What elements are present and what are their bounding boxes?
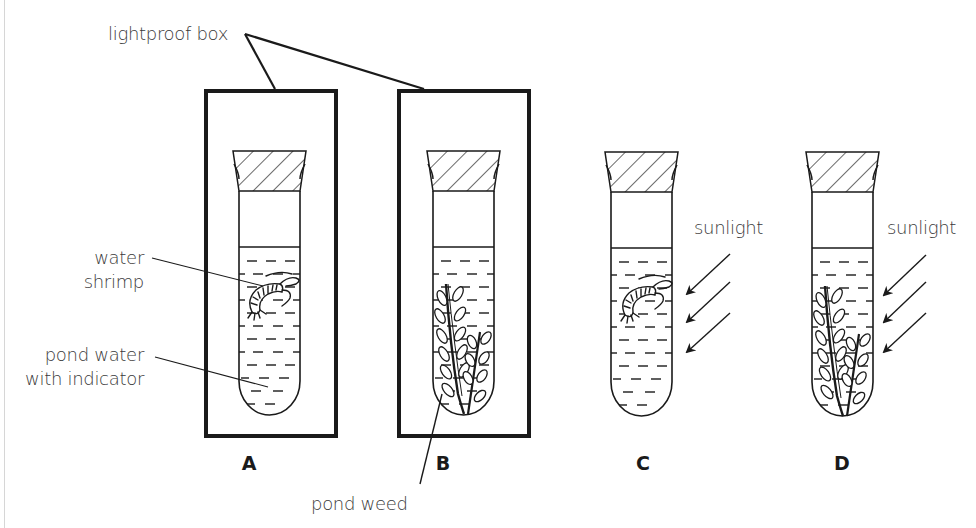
test-tube-d bbox=[806, 152, 879, 416]
test-tube-a bbox=[233, 151, 306, 415]
pond-water-leader bbox=[155, 357, 268, 387]
label-lightproof-box: lightproof box bbox=[108, 22, 228, 46]
label-sunlight-c: sunlight bbox=[694, 216, 763, 240]
tube-label-c: C bbox=[623, 452, 663, 474]
label-pond-water-2: with indicator bbox=[10, 367, 144, 391]
label-pond-water-1: pond water bbox=[10, 343, 144, 367]
water-shrimp-icon bbox=[621, 275, 672, 323]
test-tube-c bbox=[605, 152, 678, 416]
label-pond-weed: pond weed bbox=[311, 492, 408, 516]
sunlight-arrows-d bbox=[884, 255, 926, 352]
label-water-shrimp-2: shrimp bbox=[60, 270, 144, 294]
test-tube-b bbox=[427, 151, 500, 415]
label-sunlight-d: sunlight bbox=[887, 216, 956, 240]
tube-label-a: A bbox=[229, 452, 269, 474]
sunlight-arrows-c bbox=[687, 254, 730, 352]
tube-label-b: B bbox=[423, 452, 463, 474]
lightproof-box-a bbox=[206, 91, 336, 436]
experiment-diagram bbox=[0, 0, 976, 528]
pond-weed-icon bbox=[812, 286, 873, 416]
tube-label-d: D bbox=[822, 452, 862, 474]
lightproof-box-leader-lines bbox=[245, 34, 424, 89]
lightproof-box-b bbox=[399, 91, 529, 436]
label-water-shrimp-1: water bbox=[60, 246, 144, 270]
